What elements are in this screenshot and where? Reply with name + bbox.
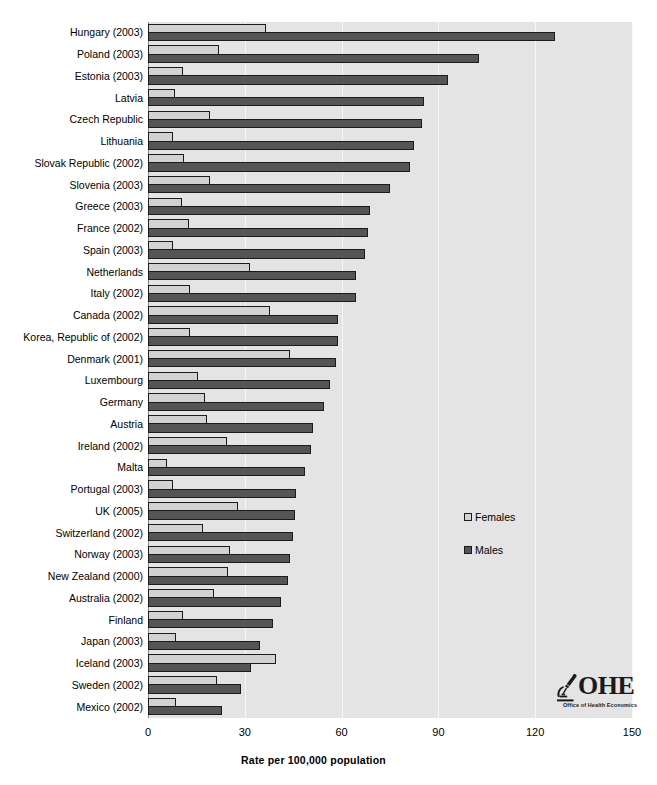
gridline-150	[632, 22, 633, 718]
bar-females	[148, 132, 173, 141]
bar-group	[148, 611, 632, 629]
bar-females	[148, 24, 266, 33]
bar-group	[148, 502, 632, 520]
bar-males	[148, 641, 260, 650]
category-label: Hungary (2003)	[70, 26, 143, 38]
bar-males	[148, 249, 365, 258]
bar-males	[148, 271, 356, 280]
bar-males	[148, 228, 368, 237]
bar-males	[148, 75, 448, 84]
bar-females	[148, 393, 205, 402]
bar-females	[148, 437, 227, 446]
x-tick-label: 60	[312, 726, 372, 738]
category-label: New Zealand (2000)	[48, 570, 143, 582]
bar-group	[148, 524, 632, 542]
bar-group	[148, 589, 632, 607]
bar-males	[148, 663, 251, 672]
category-label: Canada (2002)	[73, 309, 143, 321]
category-label: Slovenia (2003)	[69, 179, 143, 191]
category-label: UK (2005)	[95, 505, 143, 517]
category-label: Finland	[109, 614, 143, 626]
category-label: Ireland (2002)	[78, 440, 143, 452]
category-label: France (2002)	[77, 222, 143, 234]
bar-group	[148, 350, 632, 368]
bar-group	[148, 546, 632, 564]
bar-group	[148, 393, 632, 411]
bar-females	[148, 45, 219, 54]
bar-males	[148, 532, 293, 541]
legend-item-females: Females	[464, 511, 515, 523]
bar-males	[148, 184, 390, 193]
category-label: Spain (2003)	[83, 244, 143, 256]
category-label: Latvia	[115, 92, 143, 104]
category-label: Italy (2002)	[90, 287, 143, 299]
bar-males	[148, 358, 336, 367]
bar-males	[148, 380, 330, 389]
bar-females	[148, 285, 190, 294]
category-label: Sweden (2002)	[72, 679, 143, 691]
bar-females	[148, 372, 198, 381]
category-axis-labels: Hungary (2003)Poland (2003)Estonia (2003…	[0, 22, 143, 718]
bar-males	[148, 336, 338, 345]
ohe-logo: OHE Office of Health Economics	[550, 672, 650, 714]
bar-males	[148, 206, 370, 215]
legend-label-females: Females	[475, 511, 515, 523]
category-label: Poland (2003)	[77, 48, 143, 60]
x-tick-label: 120	[505, 726, 565, 738]
bar-group	[148, 459, 632, 477]
bar-females	[148, 89, 175, 98]
bar-males	[148, 315, 338, 324]
bar-group	[148, 306, 632, 324]
x-axis-title: Rate per 100,000 population	[0, 754, 657, 766]
category-label: Germany	[100, 396, 143, 408]
bar-males	[148, 510, 295, 519]
bar-group	[148, 45, 632, 63]
bar-group	[148, 89, 632, 107]
bar-females	[148, 589, 214, 598]
bar-group	[148, 633, 632, 651]
bar-males	[148, 119, 422, 128]
bar-group	[148, 219, 632, 237]
bar-females	[148, 219, 189, 228]
bar-females	[148, 263, 250, 272]
category-label: Mexico (2002)	[76, 701, 143, 713]
category-label: Australia (2002)	[69, 592, 143, 604]
bar-group	[148, 111, 632, 129]
bar-group	[148, 176, 632, 194]
plot-area	[148, 22, 632, 718]
bar-females	[148, 415, 207, 424]
bar-females	[148, 67, 183, 76]
bar-females	[148, 306, 270, 315]
bar-females	[148, 546, 230, 555]
bar-chart: Hungary (2003)Poland (2003)Estonia (2003…	[0, 0, 657, 785]
category-label: Luxembourg	[85, 374, 143, 386]
category-label: Malta	[117, 461, 143, 473]
bar-females	[148, 567, 228, 576]
bar-males	[148, 467, 305, 476]
bar-females	[148, 698, 176, 707]
bar-females	[148, 154, 184, 163]
category-label: Austria	[110, 418, 143, 430]
bar-group	[148, 567, 632, 585]
category-label: Norway (2003)	[74, 548, 143, 560]
bar-group	[148, 198, 632, 216]
bar-males	[148, 489, 296, 498]
bar-females	[148, 350, 290, 359]
category-label: Czech Republic	[69, 113, 143, 125]
legend-swatch-females-icon	[464, 513, 472, 521]
x-tick-label: 30	[215, 726, 275, 738]
bar-group	[148, 154, 632, 172]
x-axis-tick-labels: 0306090120150	[0, 726, 657, 742]
bar-males	[148, 706, 222, 715]
bar-males	[148, 619, 273, 628]
legend-item-males: Males	[464, 544, 503, 556]
bar-males	[148, 554, 290, 563]
bar-females	[148, 502, 238, 511]
bar-females	[148, 328, 190, 337]
bar-rows	[148, 22, 632, 718]
bar-group	[148, 372, 632, 390]
bar-group	[148, 24, 632, 42]
bar-group	[148, 263, 632, 281]
bar-females	[148, 654, 276, 663]
bar-males	[148, 445, 311, 454]
